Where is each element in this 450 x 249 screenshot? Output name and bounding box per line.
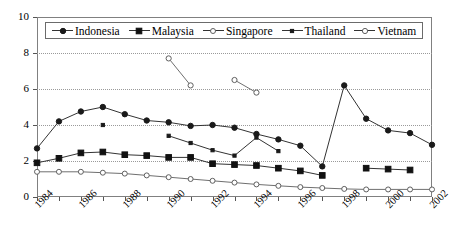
data-point [277, 150, 280, 153]
data-point [78, 150, 84, 156]
series-line [169, 136, 279, 156]
data-point [320, 186, 325, 191]
data-point [101, 123, 104, 126]
data-point [188, 123, 193, 128]
legend-marker-open-circle-small-icon [354, 26, 375, 36]
data-point [166, 175, 171, 180]
data-point [276, 137, 281, 142]
data-point [167, 134, 170, 137]
data-point [122, 152, 128, 158]
data-point [385, 128, 390, 133]
data-point [298, 168, 304, 174]
data-point [188, 177, 193, 182]
data-point [276, 165, 282, 171]
data-point [78, 109, 83, 114]
legend-marker-filled-small-icon [282, 26, 303, 36]
data-point [56, 169, 61, 174]
legend-label: Vietnam [377, 25, 416, 37]
data-point [210, 122, 215, 127]
data-point [364, 187, 369, 192]
data-point [166, 56, 171, 61]
data-point [210, 161, 216, 167]
data-point [232, 125, 237, 130]
legend-marker-filled-circle-icon [52, 26, 73, 36]
legend-entry-indonesia[interactable]: Indonesia [52, 25, 120, 37]
legend-marker-open-circle-icon [203, 26, 224, 36]
legend-entry-malaysia[interactable]: Malaysia [129, 25, 194, 37]
data-point [233, 154, 236, 157]
data-point [232, 180, 237, 185]
data-point [276, 183, 281, 188]
data-point [319, 173, 325, 179]
legend-entry-vietnam[interactable]: Vietnam [354, 25, 416, 37]
data-point [298, 185, 303, 190]
data-point [144, 173, 149, 178]
data-point [385, 166, 391, 172]
data-point [386, 187, 391, 192]
data-point [211, 149, 214, 152]
data-point [100, 149, 106, 155]
series-singapore [35, 169, 435, 192]
data-point [144, 118, 149, 123]
legend-label: Singapore [226, 25, 273, 37]
data-point [254, 163, 260, 169]
data-point [298, 143, 303, 148]
data-point [254, 90, 259, 95]
series-line [169, 58, 191, 85]
chart-legend: IndonesiaMalaysiaSingaporeThailandVietna… [45, 22, 423, 39]
data-point [342, 83, 347, 88]
data-point [408, 187, 413, 192]
data-point [166, 120, 171, 125]
series-vietnam [166, 56, 259, 95]
data-point [430, 187, 435, 192]
data-point [122, 171, 127, 176]
data-point [255, 136, 258, 139]
data-point [407, 130, 412, 135]
legend-entry-thailand[interactable]: Thailand [282, 25, 346, 37]
data-point [210, 178, 215, 183]
data-point [34, 160, 40, 166]
data-point [363, 116, 368, 121]
data-point [100, 170, 105, 175]
legend-entry-singapore[interactable]: Singapore [203, 25, 273, 37]
data-point [232, 77, 237, 82]
data-point [78, 169, 83, 174]
series-line [235, 80, 257, 93]
data-point [188, 83, 193, 88]
data-point [56, 119, 61, 124]
data-point [56, 156, 62, 162]
data-point [122, 112, 127, 117]
legend-label: Malaysia [152, 25, 194, 37]
data-point [429, 142, 434, 147]
data-point [254, 182, 259, 187]
legend-marker-filled-square-icon [129, 26, 150, 36]
data-point [144, 153, 150, 159]
legend-label: Indonesia [75, 25, 120, 37]
data-point [166, 155, 172, 161]
data-point [232, 162, 238, 168]
data-point [100, 104, 105, 109]
data-point [189, 141, 192, 144]
data-point [188, 155, 194, 161]
data-point [342, 186, 347, 191]
data-point [35, 169, 40, 174]
data-point [363, 165, 369, 171]
data-point [320, 164, 325, 169]
data-point [34, 146, 39, 151]
legend-label: Thailand [305, 25, 346, 37]
data-point [407, 167, 413, 173]
series-malaysia [34, 149, 413, 178]
